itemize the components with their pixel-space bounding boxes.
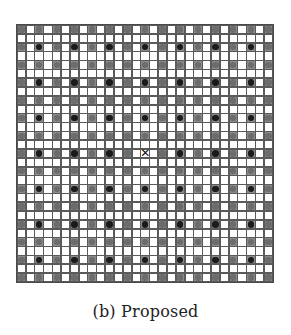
grid-cell-black: [141, 185, 148, 192]
grid-cell-empty: [62, 52, 69, 59]
grid-cell-empty: [88, 247, 95, 254]
grid-cell-gray: [53, 97, 60, 104]
gray-circle-icon: [89, 79, 95, 85]
grid-cell-gray: [194, 132, 201, 139]
gray-circle-icon: [36, 168, 42, 174]
grid-cell-empty: [97, 61, 104, 68]
grid-cell-empty: [256, 176, 263, 183]
grid-cell-empty: [97, 230, 104, 237]
grid-cell-gray: [265, 132, 272, 139]
gray-circle-icon: [89, 239, 95, 245]
grid-cell-empty: [62, 35, 69, 42]
grid-cell-empty: [168, 88, 175, 95]
grid-cell-empty: [230, 176, 237, 183]
grid-cell-empty: [115, 194, 122, 201]
grid-cell-gray: [177, 238, 184, 245]
grid-cell-empty: [88, 159, 95, 166]
gray-circle-icon: [36, 133, 42, 139]
grid-cell-empty: [80, 238, 87, 245]
grid-cell-gray: [212, 168, 219, 175]
gray-circle-icon: [159, 44, 165, 50]
gray-circle-icon: [54, 257, 60, 263]
grid-cell-gray: [230, 61, 237, 68]
grid-cell-empty: [194, 212, 201, 219]
grid-cell-empty: [238, 203, 245, 210]
gray-circle-icon: [230, 239, 236, 245]
grid-cell-empty: [150, 106, 157, 113]
grid-cell-empty: [44, 70, 51, 77]
gray-circle-icon: [124, 62, 130, 68]
grid-cell-gray: [247, 97, 254, 104]
gray-circle-icon: [159, 97, 165, 103]
grid-cell-empty: [238, 212, 245, 219]
grid-cell-empty: [133, 265, 140, 272]
grid-cell-gray: [106, 26, 113, 33]
gray-circle-icon: [71, 168, 77, 174]
grid-cell-empty: [124, 88, 131, 95]
grid-cell-black: [106, 44, 113, 51]
grid-cell-empty: [18, 123, 25, 130]
grid-cell-empty: [18, 230, 25, 237]
grid-cell-empty: [80, 176, 87, 183]
grid-cell-empty: [159, 88, 166, 95]
grid-cell-gray: [88, 79, 95, 86]
grid-cell-empty: [80, 150, 87, 157]
grid-cell-empty: [124, 247, 131, 254]
grid-cell-black: [106, 114, 113, 121]
grid-cell-black: [247, 221, 254, 228]
gray-circle-icon: [18, 26, 24, 32]
grid-cell-empty: [221, 35, 228, 42]
grid-cell-empty: [53, 123, 60, 130]
grid-cell-empty: [186, 114, 193, 121]
grid-cell-empty: [18, 194, 25, 201]
grid-cell-gray: [194, 221, 201, 228]
gray-circle-icon: [212, 274, 218, 280]
grid-cell-empty: [186, 238, 193, 245]
grid-cell-gray: [106, 238, 113, 245]
gray-circle-icon: [248, 62, 254, 68]
grid-cell-empty: [18, 52, 25, 59]
grid-cell-empty: [177, 176, 184, 183]
grid-cell-empty: [221, 194, 228, 201]
gray-circle-icon: [265, 150, 271, 156]
grid-cell-gray: [18, 44, 25, 51]
grid-cell-empty: [35, 176, 42, 183]
grid-cell-empty: [168, 26, 175, 33]
gray-circle-icon: [212, 168, 218, 174]
grid-cell-empty: [168, 44, 175, 51]
grid-cell-empty: [168, 230, 175, 237]
grid-cell-empty: [88, 230, 95, 237]
gray-circle-icon: [265, 274, 271, 280]
grid-cell-empty: [168, 123, 175, 130]
grid-cell-empty: [168, 61, 175, 68]
black-circle-icon: [142, 221, 148, 227]
black-circle-icon: [248, 221, 254, 227]
grid-cell-empty: [150, 159, 157, 166]
gray-circle-icon: [212, 133, 218, 139]
grid-cell-black: [247, 114, 254, 121]
black-circle-icon: [212, 79, 218, 85]
grid-cell-black: [35, 185, 42, 192]
gray-circle-icon: [106, 26, 112, 32]
gray-circle-icon: [54, 203, 60, 209]
grid-cell-empty: [247, 194, 254, 201]
grid-cell-empty: [212, 212, 219, 219]
grid-cell-empty: [159, 159, 166, 166]
grid-cell-empty: [221, 230, 228, 237]
grid-cell-empty: [256, 247, 263, 254]
grid-cell-empty: [133, 176, 140, 183]
grid-cell-empty: [124, 70, 131, 77]
gray-circle-icon: [89, 221, 95, 227]
grid-cell-empty: [247, 88, 254, 95]
grid-cell-empty: [62, 185, 69, 192]
gray-circle-icon: [124, 221, 130, 227]
grid-cell-gray: [18, 61, 25, 68]
grid-cell-empty: [256, 35, 263, 42]
grid-cell-gray: [124, 61, 131, 68]
grid-cell-black: [212, 185, 219, 192]
grid-cell-empty: [256, 238, 263, 245]
gray-circle-icon: [195, 26, 201, 32]
grid-cell-empty: [27, 70, 34, 77]
grid-cell-empty: [62, 274, 69, 281]
grid-cell-empty: [203, 44, 210, 51]
